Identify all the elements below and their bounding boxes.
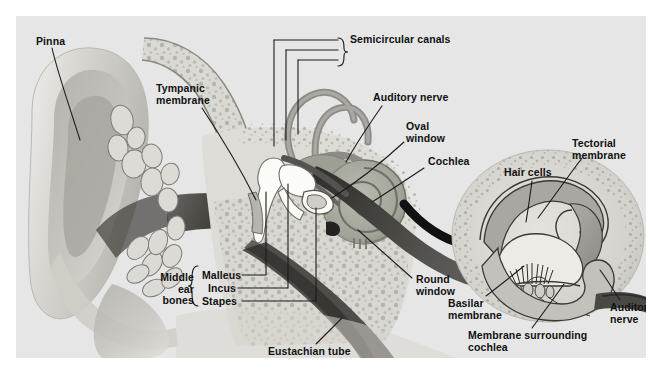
leader-lines — [16, 16, 646, 358]
label-auditory-nerve: Auditory nerve — [373, 92, 449, 104]
label-stapes: Stapes — [202, 296, 237, 308]
label-inset-auditory-nerve: Auditory nerve — [610, 302, 646, 325]
label-cochlea: Cochlea — [428, 156, 470, 168]
label-oval-window: Oval window — [406, 121, 445, 144]
label-round-window: Round window — [416, 274, 455, 297]
label-malleus: Malleus — [202, 270, 241, 282]
label-basilar-membrane: Basilar membrane — [448, 298, 502, 321]
label-tectorial-membrane: Tectorial membrane — [572, 138, 626, 161]
label-eustachian-tube: Eustachian tube — [268, 346, 351, 358]
label-membrane-surrounding-cochlea: Membrane surrounding cochlea — [468, 330, 587, 353]
label-hair-cells: Hair cells — [504, 167, 552, 179]
label-incus: Incus — [168, 283, 236, 295]
label-semicircular-canals: Semicircular canals — [350, 34, 451, 46]
ear-diagram-panel: Pinna Tympanic membrane Semicircular can… — [16, 16, 646, 358]
label-tympanic-membrane: Tympanic membrane — [156, 83, 210, 106]
figure-root: Pinna Tympanic membrane Semicircular can… — [0, 0, 662, 378]
label-pinna: Pinna — [36, 36, 65, 48]
